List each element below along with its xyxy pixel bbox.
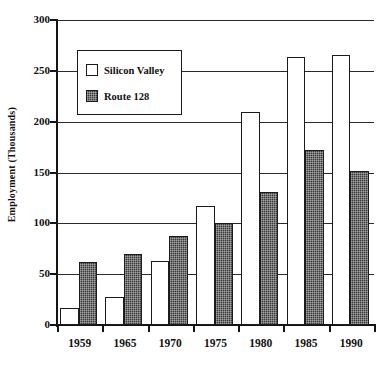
bar-route-128-1980 (260, 192, 279, 325)
bar-route-128-1965 (124, 254, 143, 325)
y-tick-label-0: 0 (20, 319, 50, 330)
x-tick-label-1959: 1959 (57, 338, 102, 350)
x-tick-label-1965: 1965 (102, 338, 147, 350)
y-tick-300 (50, 19, 57, 21)
x-tick-1980 (238, 325, 240, 332)
gridline-200 (57, 122, 374, 123)
gridline-150 (57, 173, 374, 174)
y-tick-0 (50, 324, 57, 326)
y-tick-label-50: 50 (20, 268, 50, 279)
legend-item-silicon-valley: Silicon Valley (86, 59, 175, 81)
bar-silicon-valley-1980 (241, 112, 260, 326)
bar-silicon-valley-1985 (287, 57, 306, 325)
x-tick-end (374, 325, 376, 332)
legend-label-route-128: Route 128 (104, 91, 149, 102)
bar-route-128-1990 (350, 171, 369, 325)
x-tick-1975 (193, 325, 195, 332)
x-tick-label-1990: 1990 (329, 338, 374, 350)
legend-label-silicon-valley: Silicon Valley (104, 65, 164, 76)
gridline-300 (57, 20, 374, 21)
y-tick-label-200: 200 (20, 116, 50, 127)
bar-route-128-1985 (305, 150, 324, 325)
y-tick-250 (50, 70, 57, 72)
bar-silicon-valley-1975 (196, 206, 215, 325)
bar-chart: Employment (Thousands) 05010015020025030… (0, 0, 392, 374)
x-tick-label-1970: 1970 (148, 338, 193, 350)
y-axis-title-label: Employment (Thousands) (6, 107, 17, 222)
bar-silicon-valley-1970 (151, 261, 170, 325)
x-tick-1959 (57, 325, 59, 332)
x-tick-1970 (148, 325, 150, 332)
y-tick-label-100: 100 (20, 217, 50, 228)
y-tick-200 (50, 121, 57, 123)
y-tick-label-250: 250 (20, 65, 50, 76)
x-tick-1965 (102, 325, 104, 332)
x-axis-tick-labels: 1959196519701975198019851990 (57, 338, 374, 362)
y-tick-100 (50, 222, 57, 224)
x-tick-label-1980: 1980 (238, 338, 283, 350)
bar-silicon-valley-1965 (105, 297, 124, 325)
x-tick-1985 (283, 325, 285, 332)
chart-legend: Silicon Valley Route 128 (77, 50, 182, 115)
bar-route-128-1975 (215, 223, 234, 325)
y-axis-tick-labels: 050100150200250300 (16, 20, 50, 325)
y-tick-label-150: 150 (20, 167, 50, 178)
bar-route-128-1970 (169, 236, 188, 325)
x-tick-1990 (329, 325, 331, 332)
y-tick-label-300: 300 (20, 14, 50, 25)
y-tick-150 (50, 172, 57, 174)
legend-swatch-silicon-valley (86, 64, 98, 76)
y-tick-50 (50, 273, 57, 275)
bar-silicon-valley-1990 (332, 55, 351, 325)
x-tick-label-1985: 1985 (283, 338, 328, 350)
legend-swatch-route-128 (86, 90, 98, 102)
bar-silicon-valley-1959 (60, 308, 79, 325)
bar-route-128-1959 (79, 262, 98, 325)
legend-item-route-128: Route 128 (86, 85, 175, 107)
x-tick-label-1975: 1975 (193, 338, 238, 350)
